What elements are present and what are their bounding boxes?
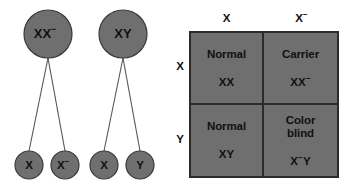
punnett-cell-bottom-left: Normal XY	[191, 105, 264, 177]
gamete-pedigree-panel: XX− XY X X−	[0, 0, 180, 188]
father-gamete-1-label: X	[100, 159, 108, 171]
connector-lines	[29, 58, 140, 151]
connector-mother-gamete-1	[29, 58, 48, 151]
punnett-square-grid: Normal XX Carrier XX− Normal XY Colorbli…	[189, 31, 339, 178]
punnett-column-header-0: X	[189, 12, 264, 24]
punnett-cell-top-right: Carrier XX−	[264, 33, 337, 105]
gamete-circle-father-1: X	[90, 151, 118, 179]
punnett-row-header-1: Y	[173, 133, 187, 145]
punnett-cell-phenotype: Normal	[207, 48, 246, 61]
gamete-circle-mother-2: X−	[51, 151, 79, 179]
punnett-column-header-1: X−	[264, 12, 339, 24]
punnett-cell-genotype: XX	[219, 76, 235, 88]
connector-father-gamete-2	[123, 58, 140, 151]
punnett-cell-genotype: X−Y	[290, 155, 311, 167]
connector-mother-gamete-2	[48, 58, 65, 151]
punnett-cell-top-left: Normal XX	[191, 33, 264, 105]
connector-father-gamete-1	[104, 58, 123, 151]
punnett-cell-bottom-right: Colorblind X−Y	[264, 105, 337, 177]
punnett-cell-phenotype: Colorblind	[286, 114, 316, 140]
pedigree-svg: XX− XY X X−	[0, 0, 180, 188]
father-gamete-2-label: Y	[136, 159, 144, 171]
punnett-cell-phenotype: Carrier	[282, 48, 319, 61]
father-genotype-label: XY	[114, 26, 132, 41]
punnett-row-header-0: X	[173, 60, 187, 72]
punnett-cell-phenotype: Normal	[207, 120, 246, 133]
punnett-cell-genotype: XY	[219, 148, 235, 160]
mother-gamete-1-label: X	[25, 159, 33, 171]
punnett-cell-genotype: XX−	[290, 76, 311, 88]
parent-circle-mother: XX−	[24, 10, 72, 58]
gamete-circle-father-2: Y	[126, 151, 154, 179]
genetics-punnett-figure: XX− XY X X−	[0, 0, 346, 188]
gamete-circle-mother-1: X	[15, 151, 43, 179]
parent-circle-father: XY	[99, 10, 147, 58]
